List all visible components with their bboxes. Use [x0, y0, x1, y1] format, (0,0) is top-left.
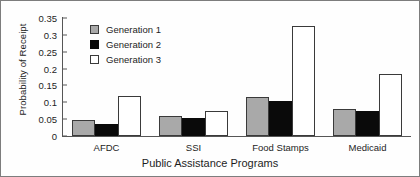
x-axis-line	[62, 136, 411, 137]
legend-label: Generation 2	[106, 39, 161, 50]
y-tick-7: 0.35	[39, 13, 64, 24]
chart-figure: Probability of Receipt 0 0.05 0.1 0.15 0…	[0, 0, 420, 177]
y-axis-title: Probability of Receipt	[17, 11, 28, 129]
bar-ssi-generation-3	[205, 111, 228, 136]
y-tick-1: 0.05	[39, 114, 64, 125]
y-tick-0: 0	[52, 131, 63, 142]
y-tick-2: 0.1	[44, 97, 63, 108]
chart-legend: Generation 1 Generation 2 Generation 3	[90, 23, 161, 68]
y-tick-5: 0.25	[39, 46, 64, 57]
bar-afdc-generation-3	[118, 96, 141, 136]
y-tick-label: 0.35	[39, 13, 58, 24]
x-axis-title: Public Assistance Programs	[1, 157, 419, 169]
bar-medicaid-generation-1	[333, 109, 356, 136]
bar-afdc-generation-2	[95, 124, 118, 136]
bar-medicaid-generation-3	[379, 74, 402, 136]
y-tick-label: 0.15	[39, 80, 58, 91]
bar-group-medicaid: Medicaid	[324, 18, 411, 136]
y-tick-3: 0.15	[39, 80, 64, 91]
y-tick-label: 0.05	[39, 114, 58, 125]
bar-medicaid-generation-2	[356, 111, 379, 136]
legend-swatch-icon	[90, 55, 99, 64]
y-tick-label: 0.1	[44, 97, 57, 108]
legend-label: Generation 3	[106, 54, 161, 65]
legend-item-generation-2: Generation 2	[90, 38, 161, 51]
y-tick-label: 0.25	[39, 46, 58, 57]
y-tick-6: 0.3	[44, 29, 63, 40]
y-tick-label: 0	[52, 131, 57, 142]
legend-item-generation-1: Generation 1	[90, 23, 161, 36]
legend-swatch-icon	[90, 25, 99, 34]
x-tick-label-medicaid: Medicaid	[348, 142, 386, 153]
bar-ssi-generation-2	[182, 118, 205, 136]
x-tick-label-food-stamps: Food Stamps	[252, 142, 309, 153]
y-tick-label: 0.2	[44, 63, 57, 74]
y-tick-label: 0.3	[44, 29, 57, 40]
x-tick-label-afdc: AFDC	[94, 142, 120, 153]
legend-item-generation-3: Generation 3	[90, 53, 161, 66]
bar-food-stamps-generation-1	[246, 97, 269, 136]
legend-swatch-icon	[90, 40, 99, 49]
bar-ssi-generation-1	[159, 116, 182, 136]
legend-label: Generation 1	[106, 24, 161, 35]
bar-food-stamps-generation-3	[292, 26, 315, 136]
y-tick-4: 0.2	[44, 63, 63, 74]
bar-group-ssi: SSI	[150, 18, 237, 136]
x-tick-label-ssi: SSI	[186, 142, 201, 153]
bar-afdc-generation-1	[72, 120, 95, 136]
bar-group-food-stamps: Food Stamps	[237, 18, 324, 136]
bar-food-stamps-generation-2	[269, 101, 292, 136]
